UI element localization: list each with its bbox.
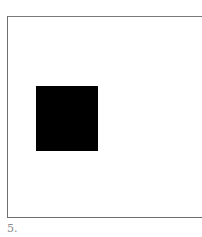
black-square — [36, 86, 98, 151]
figure-number-label: 5. — [7, 223, 18, 235]
